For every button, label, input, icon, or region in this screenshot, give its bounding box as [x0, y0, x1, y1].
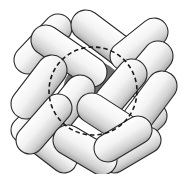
capsule-cluster-diagram	[0, 0, 183, 174]
